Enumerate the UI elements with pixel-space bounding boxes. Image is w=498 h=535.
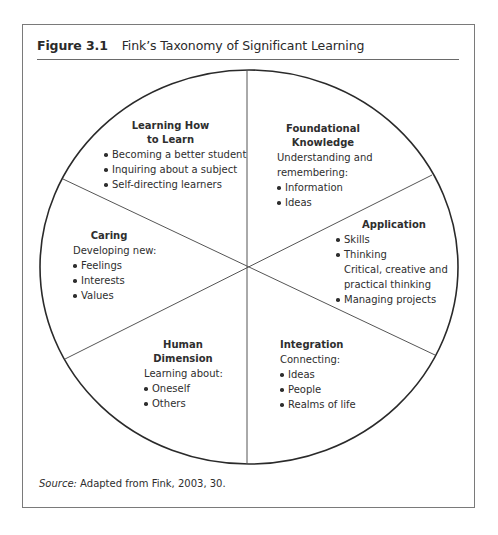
segment-heading: Learning How to Learn — [104, 119, 237, 147]
list-item: Realms of life — [280, 397, 356, 412]
list-item: Feelings — [73, 258, 156, 273]
heading-line-1: Foundational — [286, 123, 360, 134]
list-item: Others — [144, 396, 223, 411]
list-subtext: practical thinking — [336, 277, 452, 292]
segment-foundational-knowledge: Foundational Knowledge Understanding and… — [277, 122, 373, 210]
source-text: Adapted from Fink, 2003, 30. — [77, 478, 226, 489]
segment-description: Connecting: — [280, 352, 356, 367]
list-subtext: Critical, creative and — [336, 262, 452, 277]
segment-heading: Foundational Knowledge — [277, 122, 369, 150]
segment-description: Developing new: — [73, 243, 156, 258]
segment-description: remembering: — [277, 165, 373, 180]
list-item: Ideas — [277, 195, 373, 210]
heading-line-1: Human — [163, 339, 203, 350]
segment-description: Understanding and — [277, 150, 373, 165]
segment-description: Learning about: — [144, 366, 223, 381]
segment-heading: Application — [336, 218, 452, 232]
source-label: Source: — [39, 478, 77, 489]
list-item: Information — [277, 180, 373, 195]
segment-integration: Integration Connecting: Ideas People Rea… — [280, 338, 356, 412]
heading-line-1: Learning How — [132, 120, 210, 131]
list-item: Becoming a better student — [104, 147, 246, 162]
heading-line-2: to Learn — [147, 134, 194, 145]
segment-heading: Integration — [280, 338, 356, 352]
heading-line-2: Dimension — [153, 353, 212, 364]
figure-source: Source: Adapted from Fink, 2003, 30. — [39, 478, 226, 489]
segment-caring: Caring Developing new: Feelings Interest… — [73, 229, 156, 303]
segment-list: Ideas People Realms of life — [280, 367, 356, 412]
list-item: Skills — [336, 232, 452, 247]
list-item: Oneself — [144, 381, 223, 396]
segment-list: Information Ideas — [277, 180, 373, 210]
list-item: Managing projects — [336, 292, 452, 307]
segment-list: Skills Thinking Critical, creative and p… — [336, 232, 452, 307]
segment-human-dimension: Human Dimension Learning about: Oneself … — [144, 338, 223, 411]
segment-list: Oneself Others — [144, 381, 223, 411]
list-item: Ideas — [280, 367, 356, 382]
list-item: Interests — [73, 273, 156, 288]
list-item: Self-directing learners — [104, 177, 246, 192]
segment-list: Feelings Interests Values — [73, 258, 156, 303]
segment-heading: Human Dimension — [144, 338, 222, 366]
list-item: People — [280, 382, 356, 397]
segment-learning-how-to-learn: Learning How to Learn Becoming a better … — [104, 119, 246, 192]
list-item: Values — [73, 288, 156, 303]
segment-list: Becoming a better student Inquiring abou… — [104, 147, 246, 192]
list-item: Inquiring about a subject — [104, 162, 246, 177]
segment-application: Application Skills Thinking Critical, cr… — [336, 218, 452, 307]
list-item: Thinking — [336, 247, 452, 262]
segment-heading: Caring — [73, 229, 145, 243]
heading-line-2: Knowledge — [292, 137, 354, 148]
